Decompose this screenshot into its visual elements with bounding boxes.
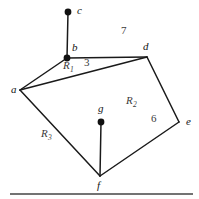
vertex-label-a: a: [11, 84, 17, 95]
region-subscript: 3: [48, 133, 52, 142]
vertex-dot-g: [98, 119, 105, 126]
region-label-r1: R1: [63, 60, 73, 71]
edge-bd: [67, 57, 147, 58]
vertex-label-e: e: [186, 116, 191, 127]
region-label-r3: R3: [41, 128, 51, 139]
edge-fg: [100, 122, 101, 176]
edge-ab: [20, 58, 67, 90]
figure-canvas: abcdefgR1R2R3376: [0, 0, 199, 199]
edge-af: [20, 90, 100, 176]
region-letter: R: [126, 94, 133, 106]
edge-weight-6: 6: [151, 113, 157, 124]
edges-group: [20, 12, 179, 176]
graph-drawing: [0, 0, 199, 199]
edge-weight-3: 3: [84, 57, 90, 68]
vertex-dot-c: [65, 9, 72, 16]
edge-ef: [100, 122, 179, 176]
vertex-label-c: c: [77, 5, 82, 16]
vertex-label-g: g: [98, 103, 104, 114]
region-letter: R: [41, 127, 48, 139]
region-subscript: 2: [133, 100, 137, 109]
edge-weight-7: 7: [121, 25, 127, 36]
vertex-label-d: d: [143, 41, 149, 52]
region-label-r2: R2: [126, 95, 136, 106]
vertex-label-f: f: [97, 180, 100, 191]
edge-bc: [67, 12, 68, 58]
region-subscript: 1: [70, 65, 74, 74]
vertex-label-b: b: [72, 42, 78, 53]
region-letter: R: [63, 59, 70, 71]
